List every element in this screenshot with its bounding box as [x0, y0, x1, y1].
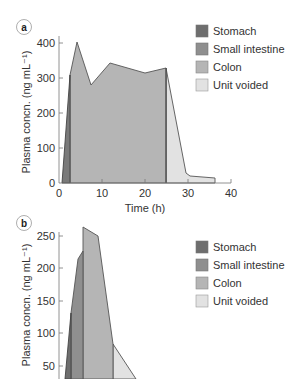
- y-tick-label: 100: [37, 142, 55, 154]
- x-tick-label: 20: [139, 187, 151, 199]
- area-stomach: [62, 75, 70, 183]
- legend-swatch-stomach: [196, 241, 208, 253]
- area-unit-voided: [113, 344, 136, 379]
- x-tick-label: 40: [225, 187, 237, 199]
- panel-b-areas: [65, 227, 136, 379]
- area-small-intestine: [71, 251, 83, 379]
- legend-label: Stomach: [213, 241, 256, 253]
- y-axis-title: Plasma concn. (ng mL⁻¹): [20, 51, 32, 174]
- legend-swatch-colon: [196, 61, 208, 73]
- panel-a-legend: Stomach Small intestine Colon Unit voide…: [196, 25, 285, 91]
- legend-label: Small intestine: [213, 43, 285, 55]
- y-tick-label: 0: [49, 177, 55, 189]
- area-colon: [70, 42, 166, 183]
- y-tick-label: 400: [37, 37, 55, 49]
- legend-swatch-small-intestine: [196, 43, 208, 55]
- y-tick-label: 250: [37, 230, 55, 242]
- legend-label: Colon: [213, 277, 242, 289]
- legend-label: Stomach: [213, 25, 256, 37]
- legend-swatch-colon: [196, 277, 208, 289]
- y-tick-label: 50: [43, 360, 55, 372]
- x-axis-title: Time (h): [125, 202, 166, 214]
- x-tick-label: 30: [182, 187, 194, 199]
- y-tick-label: 200: [37, 107, 55, 119]
- panel-b-legend: Stomach Small intestine Colon Unit voide…: [196, 241, 285, 307]
- x-tick-label: 0: [56, 187, 62, 199]
- legend-label: Unit voided: [213, 79, 268, 91]
- figure: a 400 300 2: [0, 0, 293, 379]
- panel-a-y-tick-labels: 400 300 200 100 0: [37, 37, 55, 189]
- x-tick-label: 10: [96, 187, 108, 199]
- legend-label: Unit voided: [213, 295, 268, 307]
- panel-a-areas: [62, 42, 215, 183]
- panel-a-x-tick-labels: 0 10 20 30 40: [56, 187, 237, 199]
- panel-a-letter: a: [21, 22, 27, 33]
- legend-swatch-stomach: [196, 25, 208, 37]
- legend-swatch-small-intestine: [196, 259, 208, 271]
- y-tick-label: 100: [37, 327, 55, 339]
- panel-b-y-tick-labels: 250 200 150 100 50: [37, 230, 55, 372]
- area-stomach: [65, 313, 71, 379]
- legend-swatch-unit-voided: [196, 79, 208, 91]
- y-tick-label: 300: [37, 72, 55, 84]
- area-colon: [83, 227, 113, 379]
- legend-swatch-unit-voided: [196, 295, 208, 307]
- panel-b-axes: [59, 232, 63, 379]
- y-axis-title: Plasma concn. (ng mL⁻¹): [20, 244, 32, 367]
- panel-a: a 400 300 2: [17, 20, 285, 215]
- panel-b: b 250 200 150 100 50 Plasma concn.: [17, 216, 285, 379]
- legend-label: Small intestine: [213, 259, 285, 271]
- legend-label: Colon: [213, 61, 242, 73]
- y-tick-label: 150: [37, 295, 55, 307]
- panel-b-letter: b: [21, 218, 27, 229]
- y-tick-label: 200: [37, 262, 55, 274]
